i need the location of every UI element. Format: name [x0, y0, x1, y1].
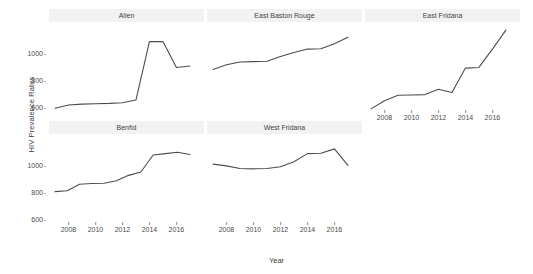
- x-axis-title: Year: [0, 256, 533, 265]
- panel-title-west-fridana: West Fridana: [207, 121, 362, 134]
- x-tick-mark: [411, 110, 412, 113]
- x-tick-2012: 2012: [273, 222, 289, 234]
- x-tick-2016: 2016: [327, 222, 343, 234]
- x-tick-2014: 2014: [458, 110, 474, 122]
- y-tick-1000-row1: 1000-: [27, 50, 46, 57]
- panel-east-baston-rouge: East Baston Rouge: [207, 9, 362, 121]
- plot-area-east-baston-rouge: [207, 22, 362, 121]
- x-tick-label: 2010: [404, 114, 420, 122]
- y-tick-600-row2: 600-: [31, 216, 46, 223]
- panel-west-fridana: West Fridana: [207, 121, 362, 233]
- panel-title-east-baston-rouge: East Baston Rouge: [207, 9, 362, 22]
- x-tick-mark: [280, 222, 281, 225]
- plot-area-west-fridana: [207, 134, 362, 233]
- x-tick-2016: 2016: [485, 110, 501, 122]
- x-tick-mark: [307, 222, 308, 225]
- x-tick-label: 2016: [485, 114, 501, 122]
- x-tick-label: 2012: [431, 114, 447, 122]
- x-tick-mark: [253, 222, 254, 225]
- x-tick-mark: [334, 222, 335, 225]
- x-tick-label: 2014: [458, 114, 474, 122]
- y-tick-600-row1: 600-: [31, 104, 46, 111]
- x-axis-east-fridana: 20082010201220142016: [365, 110, 520, 124]
- line-series-benfid: [55, 152, 190, 191]
- panel-allen: Allen: [49, 9, 204, 121]
- plot-area-east-fridana: [365, 22, 520, 121]
- x-tick-2008: 2008: [219, 222, 235, 234]
- x-tick-mark: [492, 110, 493, 113]
- line-series-east-baston-rouge: [213, 37, 348, 69]
- x-tick-label: 2008: [61, 226, 77, 234]
- x-tick-label: 2012: [273, 226, 289, 234]
- panel-title-benfid: Benfid: [49, 121, 204, 134]
- x-tick-mark: [68, 222, 69, 225]
- x-tick-2010: 2010: [246, 222, 262, 234]
- y-axis-row-1: 1000- 800- 600-: [14, 28, 46, 123]
- plot-svg-allen: [49, 22, 204, 121]
- x-tick-label: 2014: [300, 226, 316, 234]
- x-tick-label: 2016: [169, 226, 185, 234]
- x-tick-2012: 2012: [115, 222, 131, 234]
- x-tick-mark: [226, 222, 227, 225]
- y-tick-800-row1: 800-: [31, 77, 46, 84]
- y-tick-800-row2: 800-: [31, 189, 46, 196]
- x-tick-label: 2008: [219, 226, 235, 234]
- plot-area-benfid: [49, 134, 204, 233]
- panel-title-allen: Allen: [49, 9, 204, 22]
- x-tick-label: 2010: [246, 226, 262, 234]
- faceted-line-chart: HIV Prevalence Rates 1000- 800- 600- 100…: [0, 0, 533, 274]
- x-tick-label: 2010: [88, 226, 104, 234]
- plot-svg-east-baston-rouge: [207, 22, 362, 121]
- x-tick-mark: [465, 110, 466, 113]
- panel-title-east-fridana: East Fridana: [365, 9, 520, 22]
- x-tick-2010: 2010: [88, 222, 104, 234]
- line-series-east-fridana: [371, 30, 506, 109]
- x-tick-2014: 2014: [300, 222, 316, 234]
- x-tick-mark: [384, 110, 385, 113]
- plot-svg-west-fridana: [207, 134, 362, 233]
- x-tick-2016: 2016: [169, 222, 185, 234]
- x-axis-west-fridana: 20082010201220142016: [207, 222, 362, 236]
- x-tick-2014: 2014: [142, 222, 158, 234]
- x-tick-mark: [438, 110, 439, 113]
- line-series-west-fridana: [213, 149, 348, 169]
- line-series-allen: [55, 42, 190, 109]
- plot-svg-benfid: [49, 134, 204, 233]
- x-tick-mark: [149, 222, 150, 225]
- x-tick-2008: 2008: [377, 110, 393, 122]
- panel-benfid: Benfid: [49, 121, 204, 233]
- y-tick-1000-row2: 1000-: [27, 162, 46, 169]
- plot-area-allen: [49, 22, 204, 121]
- x-tick-2010: 2010: [404, 110, 420, 122]
- x-tick-label: 2014: [142, 226, 158, 234]
- x-axis-benfid: 20082010201220142016: [49, 222, 204, 236]
- x-tick-label: 2012: [115, 226, 131, 234]
- x-tick-2008: 2008: [61, 222, 77, 234]
- x-tick-2012: 2012: [431, 110, 447, 122]
- plot-svg-east-fridana: [365, 22, 520, 121]
- y-axis-row-2: 1000- 800- 600-: [14, 140, 46, 235]
- x-tick-mark: [95, 222, 96, 225]
- x-tick-mark: [122, 222, 123, 225]
- panel-east-fridana: East Fridana: [365, 9, 520, 121]
- x-tick-mark: [176, 222, 177, 225]
- x-tick-label: 2016: [327, 226, 343, 234]
- x-tick-label: 2008: [377, 114, 393, 122]
